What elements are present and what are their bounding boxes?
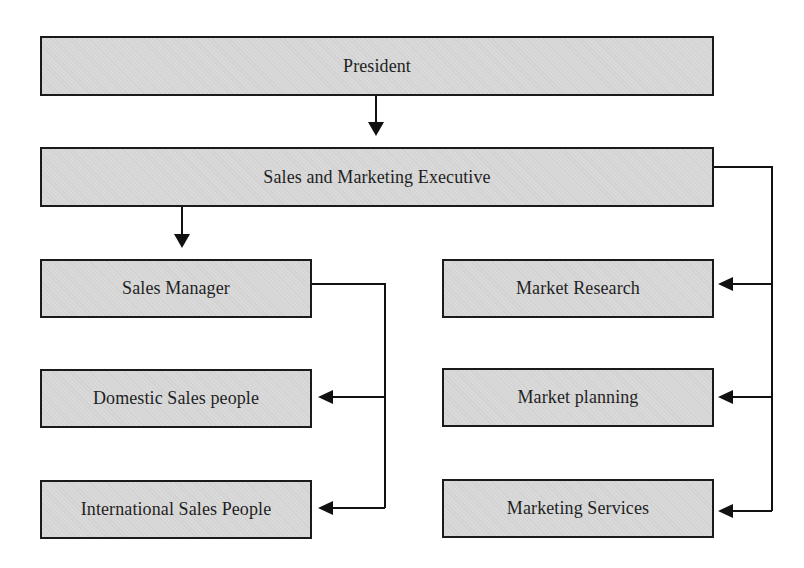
node-label: Market Research xyxy=(516,278,640,299)
node-label: President xyxy=(343,56,411,77)
node-president: President xyxy=(40,36,714,96)
node-label: Domestic Sales people xyxy=(93,388,259,409)
arrow-to-market-research xyxy=(718,277,733,291)
node-international-sales-people: International Sales People xyxy=(40,480,312,539)
arrow-president-to-executive xyxy=(368,95,384,136)
node-label: Sales Manager xyxy=(122,278,230,299)
node-domestic-sales-people: Domestic Sales people xyxy=(40,369,312,428)
node-sales-marketing-executive: Sales and Marketing Executive xyxy=(40,147,714,207)
arrow-to-marketing-services xyxy=(718,504,733,518)
arrow-executive-to-sales-manager xyxy=(174,207,190,248)
node-label: Sales and Marketing Executive xyxy=(263,167,490,188)
node-sales-manager: Sales Manager xyxy=(40,259,312,318)
node-label: International Sales People xyxy=(81,499,272,520)
node-label: Marketing Services xyxy=(507,498,649,519)
node-marketing-services: Marketing Services xyxy=(442,479,714,538)
node-market-planning: Market planning xyxy=(442,368,714,427)
sales-manager-bus-line xyxy=(311,284,385,515)
arrow-to-international-sales xyxy=(318,501,333,515)
node-market-research: Market Research xyxy=(442,259,714,318)
arrow-to-domestic-sales xyxy=(318,390,333,404)
executive-bus-line xyxy=(713,167,772,518)
arrow-to-market-planning xyxy=(718,390,733,404)
node-label: Market planning xyxy=(518,387,639,408)
